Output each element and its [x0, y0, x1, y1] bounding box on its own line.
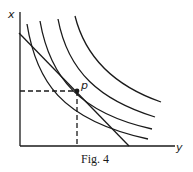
indifference-curve-diagram: x y p Fig. 4: [0, 0, 193, 172]
x-axis-label: y: [175, 141, 183, 154]
indifference-curve-3: [58, 19, 155, 117]
y-axis-label: x: [7, 8, 15, 21]
figure-caption: Fig. 4: [81, 152, 109, 166]
point-label: p: [80, 79, 88, 92]
budget-line: [19, 33, 129, 146]
tangent-point-marker: [75, 89, 80, 94]
